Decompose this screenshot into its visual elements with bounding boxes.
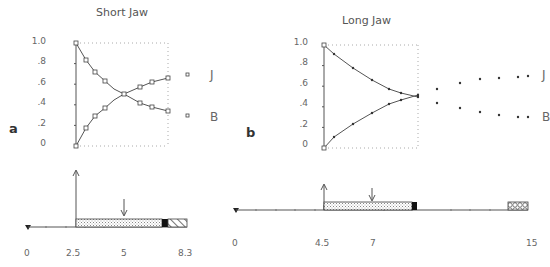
figure-graphics bbox=[0, 0, 550, 267]
chart-b bbox=[322, 43, 529, 150]
timeline-b bbox=[233, 184, 528, 213]
timeline-a bbox=[25, 170, 187, 230]
chart-a bbox=[74, 41, 189, 148]
